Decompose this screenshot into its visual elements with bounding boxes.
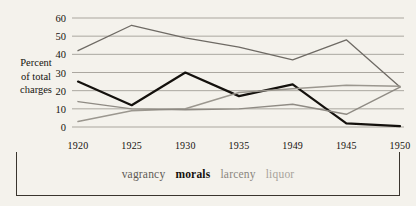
x-tick-label: 1925 [112, 140, 152, 151]
y-tick-label: 60 [42, 13, 66, 24]
y-tick-label: 30 [42, 67, 66, 78]
line-chart-figure: Percent of total charges 0102030405060 1… [0, 0, 416, 206]
y-tick-label: 0 [42, 122, 66, 133]
legend-item-morals: morals [175, 168, 210, 180]
legend-item-vagrancy: vagrancy [122, 168, 166, 180]
series-line-liquor [78, 87, 400, 114]
x-tick-label: 1935 [219, 140, 259, 151]
x-tick-label: 1920 [58, 140, 98, 151]
legend: vagrancymoralslarcenyliquor [16, 152, 400, 196]
x-tick-label: 1945 [326, 140, 366, 151]
y-tick-label: 40 [42, 49, 66, 60]
plot-canvas [72, 10, 404, 135]
legend-item-liquor: liquor [266, 168, 295, 180]
legend-item-larceny: larceny [220, 168, 255, 180]
plot-area [72, 10, 404, 135]
y-tick-label: 20 [42, 85, 66, 96]
legend-items: vagrancymoralslarcenyliquor [17, 164, 399, 182]
y-tick-label: 10 [42, 103, 66, 114]
x-tick-label: 1930 [165, 140, 205, 151]
x-tick-label: 1950 [380, 140, 416, 151]
x-tick-label: 1949 [273, 140, 313, 151]
series-line-vagrancy [78, 25, 400, 87]
y-tick-label: 50 [42, 31, 66, 42]
series-line-morals [78, 73, 400, 127]
series-lines [78, 25, 400, 126]
